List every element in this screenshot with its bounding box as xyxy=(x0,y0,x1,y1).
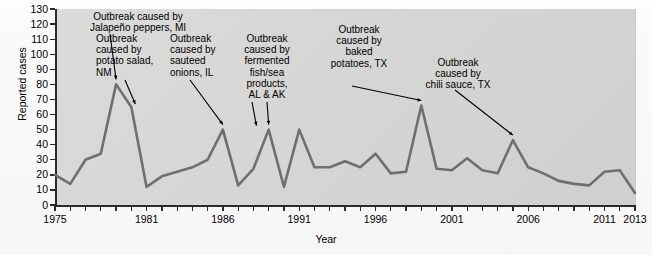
annotation-arrow-head xyxy=(254,122,257,126)
annotation-arrow-head xyxy=(267,121,270,125)
annotation-arrow-line xyxy=(455,90,513,135)
figure-container: 0102030405060708090100110120130 19751981… xyxy=(0,0,652,255)
annotation-arrow-line xyxy=(352,86,421,100)
annotation-arrows xyxy=(110,34,513,135)
chart-overlay xyxy=(0,0,652,255)
annotation-arrow-line xyxy=(190,80,223,125)
data-line xyxy=(55,84,635,193)
annotation-arrow-line xyxy=(110,34,116,79)
